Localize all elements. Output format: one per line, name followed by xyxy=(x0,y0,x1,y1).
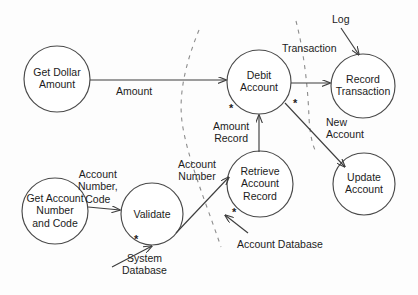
process-update-account[interactable] xyxy=(333,153,395,215)
star-mark-debit-account-input: * xyxy=(229,103,233,114)
flow-label-amount-record: Amount Record xyxy=(213,120,249,145)
star-mark-validate-input: * xyxy=(134,234,138,245)
process-record-transaction[interactable] xyxy=(331,54,395,118)
process-validate[interactable] xyxy=(121,183,183,245)
star-mark-debit-account-output: * xyxy=(293,98,297,109)
flow-log xyxy=(341,28,359,55)
process-retrieve-account-record[interactable] xyxy=(227,151,293,217)
diagram-canvas xyxy=(0,0,418,295)
flow-label-system-database: System Database xyxy=(122,252,167,277)
process-get-dollar-amount[interactable] xyxy=(24,46,90,112)
flow-account-number xyxy=(176,177,229,233)
flow-label-amount: Amount xyxy=(116,85,152,97)
data-flow-diagram: Get Dollar Amount Debit Account Record T… xyxy=(0,0,418,295)
process-debit-account[interactable] xyxy=(227,50,291,114)
flow-label-account-number: Account Number xyxy=(178,158,216,183)
flow-label-account-database: Account Database xyxy=(237,238,323,250)
flow-label-transaction: Transaction xyxy=(282,42,336,54)
flow-label-new-account: New Account xyxy=(326,116,364,141)
flow-label-log: Log xyxy=(332,13,350,25)
star-mark-retrieve-account-record-input: * xyxy=(232,207,236,218)
flow-account-database xyxy=(225,215,248,233)
flow-label-account-number-code: Account Number, Code xyxy=(78,168,118,205)
flow-account-number-code xyxy=(88,207,120,210)
